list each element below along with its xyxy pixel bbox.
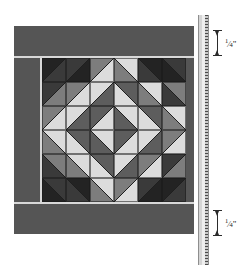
dimension-label-top: 1⁄4" — [225, 37, 237, 49]
unit-seam-outline — [66, 154, 90, 178]
unit-seam-outline — [162, 130, 186, 154]
unit-seam-outline — [114, 106, 138, 130]
hst-unit-r6-c2 — [66, 178, 90, 202]
hst-unit-r6-c4 — [114, 178, 138, 202]
unit-seam-outline — [66, 106, 90, 130]
unit-seam-outline — [138, 178, 162, 202]
unit-seam-outline — [42, 106, 66, 130]
unit-seam-outline — [162, 106, 186, 130]
hst-unit-r4-c5 — [138, 130, 162, 154]
unit-seam-outline — [114, 82, 138, 106]
measuring-ruler[interactable] — [198, 15, 209, 265]
hst-unit-r3-c1 — [42, 106, 66, 130]
unit-seam-outline — [138, 106, 162, 130]
hst-unit-r5-c5 — [138, 154, 162, 178]
border-bottom — [14, 204, 194, 234]
arrow-down-icon — [215, 31, 219, 36]
callout-top-seam-allowance: 1⁄4" — [213, 30, 237, 56]
hst-unit-r1-c4 — [114, 58, 138, 82]
hst-unit-r1-c1 — [42, 58, 66, 82]
hst-unit-r6-c1 — [42, 178, 66, 202]
hst-unit-r4-c3 — [90, 130, 114, 154]
dimension-line-bottom — [213, 210, 222, 236]
hst-unit-r4-c4 — [114, 130, 138, 154]
hst-unit-r3-c5 — [138, 106, 162, 130]
unit-seam-outline — [66, 130, 90, 154]
unit-seam-outline — [162, 58, 186, 82]
unit-seam-outline — [138, 154, 162, 178]
unit-seam-outline — [138, 130, 162, 154]
unit-seam-outline — [42, 178, 66, 202]
unit-seam-outline — [162, 178, 186, 202]
unit-seam-outline — [90, 178, 114, 202]
unit-seam-outline — [138, 82, 162, 106]
hst-unit-r4-c1 — [42, 130, 66, 154]
arrow-up-icon — [215, 230, 219, 235]
unit-seam-outline — [42, 154, 66, 178]
unit-seam-outline — [138, 58, 162, 82]
hst-unit-r1-c2 — [66, 58, 90, 82]
unit-seam-outline — [90, 130, 114, 154]
hst-unit-r6-c3 — [90, 178, 114, 202]
diagram-canvas: 1⁄4" 1⁄4" — [0, 0, 252, 280]
unit-seam-outline — [90, 82, 114, 106]
hst-unit-r2-c2 — [66, 82, 90, 106]
dimension-line-top — [213, 30, 222, 56]
hst-unit-r2-c1 — [42, 82, 66, 106]
pieced-field — [42, 58, 186, 202]
hst-unit-r1-c5 — [138, 58, 162, 82]
unit-seam-outline — [114, 154, 138, 178]
hst-unit-r4-c2 — [66, 130, 90, 154]
hst-unit-r6-c5 — [138, 178, 162, 202]
hst-unit-r5-c4 — [114, 154, 138, 178]
border-top — [14, 26, 194, 56]
hst-unit-r6-c6 — [162, 178, 186, 202]
unit-seam-outline — [90, 106, 114, 130]
unit-seam-outline — [162, 154, 186, 178]
unit-seam-outline — [66, 82, 90, 106]
quilt-block — [14, 26, 194, 234]
unit-seam-outline — [162, 82, 186, 106]
hst-unit-r3-c3 — [90, 106, 114, 130]
hst-unit-r1-c3 — [90, 58, 114, 82]
arrow-up-icon — [215, 50, 219, 55]
hst-unit-r2-c4 — [114, 82, 138, 106]
unit-seam-outline — [42, 58, 66, 82]
hst-unit-r2-c3 — [90, 82, 114, 106]
hst-unit-r5-c1 — [42, 154, 66, 178]
hst-unit-r2-c6 — [162, 82, 186, 106]
hst-unit-r5-c6 — [162, 154, 186, 178]
hst-unit-r5-c2 — [66, 154, 90, 178]
arrow-down-icon — [215, 211, 219, 216]
hst-unit-r1-c6 — [162, 58, 186, 82]
unit-seam-outline — [90, 58, 114, 82]
unit-seam-outline — [42, 82, 66, 106]
hst-unit-r2-c5 — [138, 82, 162, 106]
callout-bottom-seam-allowance: 1⁄4" — [213, 210, 237, 236]
unit-seam-outline — [114, 58, 138, 82]
unit-seam-outline — [114, 178, 138, 202]
unit-seam-outline — [90, 154, 114, 178]
hst-unit-r5-c3 — [90, 154, 114, 178]
border-left — [14, 56, 42, 204]
hst-unit-r3-c6 — [162, 106, 186, 130]
unit-seam-outline — [66, 178, 90, 202]
unit-seam-outline — [114, 130, 138, 154]
hst-unit-r3-c4 — [114, 106, 138, 130]
hst-unit-r3-c2 — [66, 106, 90, 130]
hst-unit-r4-c6 — [162, 130, 186, 154]
unit-seam-outline — [42, 130, 66, 154]
ruler-tick-marks — [205, 15, 208, 265]
dimension-label-bottom: 1⁄4" — [225, 217, 237, 229]
unit-seam-outline — [66, 58, 90, 82]
